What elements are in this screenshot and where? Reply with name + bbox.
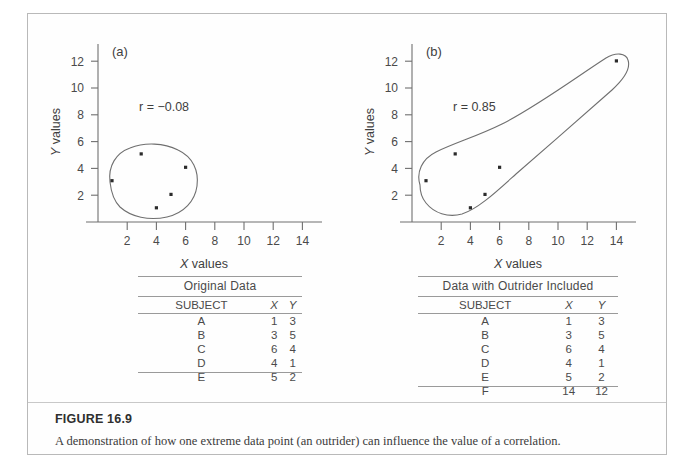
x-tick-label: 12 [267,234,281,248]
cell-x: 1 [552,314,585,329]
data-point-outlier [615,59,618,62]
cell-y: 3 [283,314,302,329]
cell-subject: A [418,314,552,329]
y-tick-label: 10 [385,81,399,95]
x-tick-label: 10 [551,234,565,248]
correlation-annotation-a: r = −0.08 [139,100,189,114]
cell-x: 5 [552,370,585,384]
cell-subject: C [138,342,265,356]
x-axis-title-rest-b: values [502,257,542,271]
y-ticks-a: 2 4 6 8 10 12 [71,55,98,203]
table-bottom-rule-a [138,372,302,373]
figure-caption-block: FIGURE 16.9 A demonstration of how one e… [55,412,640,449]
cell-x: 3 [265,328,284,342]
cell-y: 1 [585,356,618,370]
y-tick-label: 8 [391,108,398,122]
x-tick-label: 14 [296,234,310,248]
cell-x: 6 [265,342,284,356]
y-tick-label: 2 [77,189,84,203]
data-points-b [424,59,618,209]
table-header-y-a: Y [283,297,302,314]
table-row: C 6 4 [418,342,618,356]
x-tick-label: 4 [153,234,160,248]
table-row: E 5 2 [418,370,618,384]
data-point [424,179,427,182]
data-point [184,166,187,169]
x-tick-label: 10 [237,234,251,248]
data-points-a [110,152,187,209]
x-tick-label: 6 [182,234,189,248]
y-tick-label: 12 [71,55,85,69]
table-header-x-b: X [552,297,585,314]
panel-label-b: (b) [426,44,442,59]
table-header-x-a: X [265,297,284,314]
y-tick-label: 6 [77,135,84,149]
cell-subject: B [418,328,552,342]
scatter-panel-b: 2 4 6 8 10 12 2 4 6 [350,14,668,276]
scatter-plot-b: 2 4 6 8 10 12 2 4 6 [350,14,668,276]
table-caption-a: Original Data [138,277,302,297]
data-point [469,206,472,209]
x-axis-title-b: X values [493,257,542,271]
cell-x: 1 [265,314,284,329]
cell-subject: B [138,328,265,342]
y-axis-title-rest-b: values [363,108,377,148]
y-tick-label: 12 [385,55,399,69]
cell-x: 4 [265,356,284,370]
table-bottom-rule-b [418,386,618,387]
y-axis-title-a: Y values [49,108,63,156]
cell-y: 3 [585,314,618,329]
x-axis-title-a: X values [179,257,228,271]
cell-subject: D [138,356,265,370]
cell-subject: E [418,370,552,384]
data-tables: Original Data SUBJECT X Y A 1 3 B 3 5 [28,276,666,398]
cell-y: 5 [283,328,302,342]
x-tick-label: 8 [211,234,218,248]
x-ticks-a: 2 4 6 8 10 12 14 [124,222,310,248]
caption-divider [28,402,666,403]
x-axis-title-rest-a: values [188,257,228,271]
cell-y: 4 [283,342,302,356]
table-caption-b: Data with Outrider Included [418,277,618,297]
x-tick-label: 2 [438,234,445,248]
cell-y: 5 [585,328,618,342]
y-tick-label: 8 [77,108,84,122]
cell-y: 1 [283,356,302,370]
data-point [169,193,172,196]
table-row: D 4 1 [138,356,302,370]
figure-frame: 2 4 6 8 10 12 2 4 [27,13,667,455]
x-tick-label: 14 [610,234,624,248]
y-axis-title-rest-a: values [49,108,63,148]
scatter-plot-a: 2 4 6 8 10 12 2 4 [36,14,354,276]
data-point [454,152,457,155]
table-row: A 1 3 [418,314,618,329]
data-envelope-b [419,54,629,215]
figure-number: FIGURE 16.9 [55,412,640,426]
x-ticks-b: 2 4 6 8 10 12 14 [438,222,624,248]
cell-x: 3 [552,328,585,342]
x-tick-label: 2 [124,234,131,248]
scatter-panel-a: 2 4 6 8 10 12 2 4 [36,14,354,276]
x-tick-label: 6 [496,234,503,248]
table-header-subject-b: SUBJECT [418,297,552,314]
y-tick-label: 4 [77,162,84,176]
scatter-panels: 2 4 6 8 10 12 2 4 [28,14,666,276]
cell-y: 4 [585,342,618,356]
data-envelope-a [110,144,198,218]
table-row: B 3 5 [138,328,302,342]
table-header-subject-a: SUBJECT [138,297,265,314]
y-axis-title-b: Y values [363,108,377,156]
figure-caption-text: A demonstration of how one extreme data … [55,433,640,449]
cell-x: 6 [552,342,585,356]
data-point [140,152,143,155]
cell-subject: C [418,342,552,356]
data-table-with-outrider: Data with Outrider Included SUBJECT X Y … [418,276,618,401]
y-tick-label: 10 [71,81,85,95]
x-tick-label: 4 [467,234,474,248]
cell-subject: A [138,314,265,329]
table-row: C 6 4 [138,342,302,356]
table-row: B 3 5 [418,328,618,342]
data-point [110,179,113,182]
panel-label-a: (a) [112,44,128,59]
data-point [498,166,501,169]
